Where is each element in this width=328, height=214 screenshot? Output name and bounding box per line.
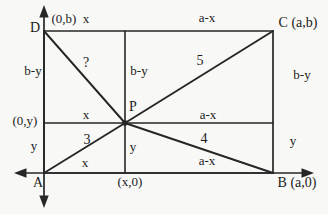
label-unknown-segment: ?	[83, 55, 89, 70]
label-top-ax: a-x	[199, 10, 216, 25]
label-corner-d: D	[30, 20, 40, 35]
label-left-y: y	[31, 138, 38, 153]
label-mid-x: x	[83, 107, 90, 122]
label-coord-0b: (0,b)	[52, 11, 77, 26]
point-p-dot	[122, 120, 128, 126]
label-center-y: y	[130, 139, 137, 154]
label-top-x: x	[83, 11, 90, 26]
label-coord-x0: (x,0)	[118, 174, 143, 189]
label-corner-b: B (a,0)	[278, 175, 317, 191]
label-mid-ax: a-x	[200, 107, 217, 122]
label-coord-0y: (0,y)	[13, 113, 38, 128]
label-center-by: b-y	[130, 63, 148, 78]
y-axis-down-arrow-icon	[39, 196, 48, 209]
geometry-figure: D (0,b) x a-x C (a,b) b-y ? b-y 5 b-y (0…	[0, 0, 328, 214]
label-segment-4: 4	[201, 131, 208, 146]
label-segment-5: 5	[197, 53, 204, 68]
label-corner-c: C (a,b)	[279, 15, 318, 31]
label-corner-a: A	[33, 175, 44, 190]
figure-svg: D (0,b) x a-x C (a,b) b-y ? b-y 5 b-y (0…	[0, 0, 328, 214]
label-right-by: b-y	[293, 67, 311, 82]
y-axis-up-arrow-icon	[39, 5, 48, 18]
label-point-p: P	[129, 99, 137, 114]
label-left-by: b-y	[24, 63, 42, 78]
label-bottom-ax: a-x	[199, 153, 216, 168]
label-bottom-x: x	[82, 155, 89, 170]
x-axis-left-arrow-icon	[14, 168, 27, 177]
label-right-y: y	[290, 133, 297, 148]
label-segment-3: 3	[84, 132, 91, 147]
